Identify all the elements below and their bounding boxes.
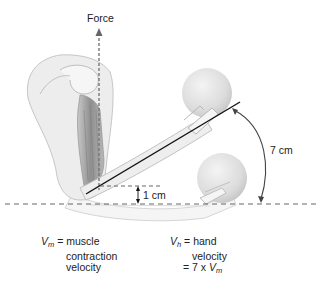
legend-line: muscle xyxy=(66,235,99,247)
legend-line: hand xyxy=(193,235,216,247)
force-label: Force xyxy=(87,12,114,24)
arrow-down-icon xyxy=(136,199,140,204)
formula-vm-subscript: m xyxy=(216,266,222,275)
formula-vm-symbol: V xyxy=(209,261,216,273)
legend-muscle-velocity: Vm = muscle contraction velocity xyxy=(41,236,117,274)
seven-cm-label: 7 cm xyxy=(270,144,293,156)
legend-hand-velocity: Vh = hand velocity = 7 x Vm xyxy=(170,236,227,277)
vh-subscript: h xyxy=(177,240,181,249)
vm-subscript: m xyxy=(48,240,54,249)
equals-sign: = xyxy=(184,235,190,247)
equals-sign: = xyxy=(57,235,63,247)
vm-symbol: V xyxy=(41,235,48,247)
vh-symbol: V xyxy=(170,235,177,247)
arrow-up-icon xyxy=(136,186,140,191)
formula-prefix: = 7 x xyxy=(183,261,209,273)
one-cm-label: 1 cm xyxy=(143,189,166,201)
arc-arrowhead-bottom-icon xyxy=(258,196,264,203)
force-arrowhead-icon xyxy=(96,28,103,36)
legend-line: velocity xyxy=(41,262,117,274)
